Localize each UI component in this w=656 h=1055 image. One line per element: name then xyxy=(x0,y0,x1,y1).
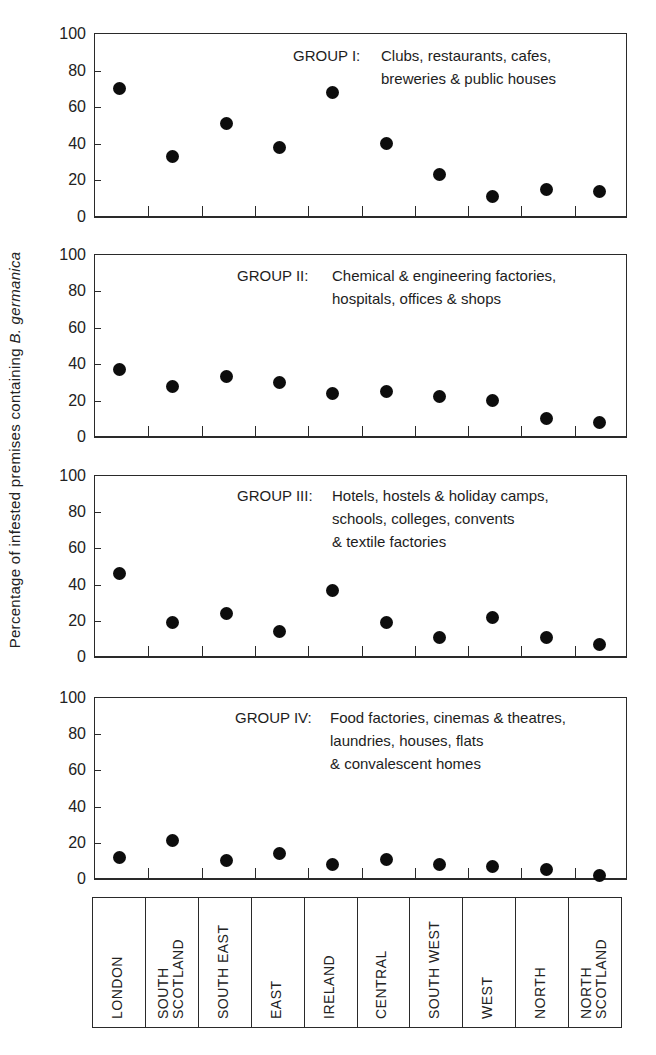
panel-title: GROUP III:Hotels, hostels & holiday camp… xyxy=(237,484,549,553)
data-point xyxy=(220,854,233,867)
y-tick xyxy=(94,621,101,622)
data-point xyxy=(113,363,126,376)
y-axis-label-species: B. germanica xyxy=(6,252,23,344)
x-tick xyxy=(202,206,203,216)
y-tick xyxy=(94,291,101,292)
data-point xyxy=(593,185,606,198)
data-point xyxy=(326,584,339,597)
category-cell: SOUTH EAST xyxy=(199,898,252,1027)
y-tick-label: 40 xyxy=(46,576,86,594)
x-tick xyxy=(308,868,309,878)
x-tick xyxy=(415,426,416,436)
panel-title-group: GROUP IV: xyxy=(235,706,330,729)
panel-title: GROUP I:Clubs, restaurants, cafes,brewer… xyxy=(293,44,556,90)
y-tick-label: 20 xyxy=(46,171,86,189)
category-label: CENTRAL xyxy=(374,950,389,1019)
data-point xyxy=(220,607,233,620)
data-point xyxy=(273,376,286,389)
data-point xyxy=(220,370,233,383)
data-point xyxy=(113,82,126,95)
data-point xyxy=(113,567,126,580)
x-tick xyxy=(575,206,576,216)
x-tick xyxy=(415,646,416,656)
y-tick xyxy=(94,107,101,108)
x-tick xyxy=(148,426,149,436)
y-tick-label: 60 xyxy=(46,539,86,557)
y-tick-label: 60 xyxy=(46,761,86,779)
x-tick xyxy=(521,868,522,878)
category-cell: IRELAND xyxy=(305,898,358,1027)
y-tick-label: 40 xyxy=(46,135,86,153)
x-tick xyxy=(255,206,256,216)
y-tick xyxy=(94,548,101,549)
data-point xyxy=(593,416,606,429)
data-point xyxy=(433,858,446,871)
y-tick-label: 80 xyxy=(46,503,86,521)
panel-title-description: Chemical & engineering factories,hospita… xyxy=(332,264,556,310)
category-label: IRELAND xyxy=(322,955,337,1019)
category-cell: WEST xyxy=(463,898,516,1027)
panel-title: GROUP II:Chemical & engineering factorie… xyxy=(237,264,556,310)
y-tick-label: 60 xyxy=(46,98,86,116)
x-tick xyxy=(468,426,469,436)
y-tick-label: 20 xyxy=(46,612,86,630)
y-tick-label: 20 xyxy=(46,392,86,410)
x-tick xyxy=(575,426,576,436)
y-tick-label: 40 xyxy=(46,355,86,373)
x-tick xyxy=(415,206,416,216)
x-tick xyxy=(521,646,522,656)
data-point xyxy=(433,390,446,403)
data-point xyxy=(540,412,553,425)
category-label: NORTH xyxy=(533,967,548,1019)
data-point xyxy=(540,631,553,644)
y-tick xyxy=(94,734,101,735)
data-point xyxy=(113,851,126,864)
y-tick-label: 80 xyxy=(46,725,86,743)
data-point xyxy=(540,863,553,876)
x-tick xyxy=(575,646,576,656)
data-point xyxy=(273,625,286,638)
x-tick xyxy=(415,868,416,878)
y-tick xyxy=(94,585,101,586)
y-tick-label: 40 xyxy=(46,798,86,816)
data-point xyxy=(220,117,233,130)
y-tick-label: 0 xyxy=(46,648,86,666)
data-point xyxy=(433,631,446,644)
category-cell: SOUTH WEST xyxy=(410,898,463,1027)
category-cell: LONDON xyxy=(93,898,146,1027)
y-tick xyxy=(94,328,101,329)
category-label-box: LONDONSOUTH SCOTLANDSOUTH EASTEASTIRELAN… xyxy=(92,897,622,1028)
category-label: SOUTH EAST xyxy=(216,925,231,1019)
y-tick-label: 0 xyxy=(46,428,86,446)
category-label: LONDON xyxy=(110,956,125,1019)
y-tick xyxy=(94,71,101,72)
y-tick-label: 100 xyxy=(46,689,86,707)
data-point xyxy=(273,141,286,154)
y-axis-label-text: Percentage of infested premises containi… xyxy=(6,344,23,649)
y-tick-label: 60 xyxy=(46,319,86,337)
panel-title-group: GROUP III: xyxy=(237,484,332,507)
x-tick xyxy=(468,868,469,878)
y-tick-label: 80 xyxy=(46,62,86,80)
data-point xyxy=(593,638,606,651)
x-tick xyxy=(202,868,203,878)
x-tick xyxy=(362,868,363,878)
y-tick-label: 100 xyxy=(46,25,86,43)
panel-title: GROUP IV:Food factories, cinemas & theat… xyxy=(235,706,566,775)
y-tick-label: 100 xyxy=(46,246,86,264)
y-tick-label: 0 xyxy=(46,870,86,888)
y-tick xyxy=(94,807,101,808)
y-tick xyxy=(94,770,101,771)
category-label: WEST xyxy=(480,977,495,1019)
y-tick xyxy=(94,364,101,365)
category-cell: NORTH SCOTLAND xyxy=(569,898,621,1027)
category-cell: NORTH xyxy=(516,898,569,1027)
x-tick xyxy=(255,646,256,656)
x-tick xyxy=(362,646,363,656)
y-tick-label: 20 xyxy=(46,834,86,852)
x-tick xyxy=(468,206,469,216)
panel-title-group: GROUP II: xyxy=(237,264,332,287)
data-point xyxy=(380,853,393,866)
panel-title-group: GROUP I: xyxy=(293,44,381,67)
x-tick xyxy=(255,426,256,436)
